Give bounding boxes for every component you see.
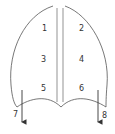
label-4: 4 — [79, 55, 84, 64]
left-outline — [11, 6, 53, 107]
label-7: 7 — [13, 110, 18, 119]
label-2: 2 — [79, 24, 84, 33]
shield-diagram: 1 2 3 4 5 6 7 8 — [0, 0, 115, 134]
bottom-outline — [17, 99, 106, 107]
label-6: 6 — [79, 84, 84, 93]
label-3: 3 — [41, 55, 46, 64]
label-1: 1 — [42, 24, 47, 33]
label-8: 8 — [102, 111, 107, 120]
label-5: 5 — [41, 84, 46, 93]
right-outline — [65, 6, 107, 107]
